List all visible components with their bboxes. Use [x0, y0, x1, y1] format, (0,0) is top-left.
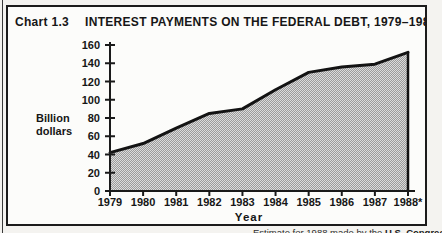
x-tick-label: 1979 — [98, 196, 122, 208]
chart-title: INTEREST PAYMENTS ON THE FEDERAL DEBT, 1… — [85, 15, 427, 29]
x-tick-label: 1986 — [330, 196, 354, 208]
x-tick-label: 1985 — [296, 196, 320, 208]
y-tick-label: 100 — [82, 94, 100, 106]
y-tick-label: 140 — [82, 57, 100, 69]
y-tick-label: 60 — [88, 130, 100, 142]
y-tick-label: 80 — [88, 112, 100, 124]
plot-svg: 0204060801001201401601979198019811982198… — [62, 35, 427, 226]
x-tick-label: 1981 — [164, 196, 188, 208]
clipped-source-text: Estimate for 1988 made by the U.S. Congr… — [253, 227, 442, 233]
x-tick-label: 1980 — [131, 196, 155, 208]
x-tick-label: 1987 — [363, 196, 387, 208]
chart-number-label: Chart 1.3 — [15, 15, 69, 29]
y-tick-label: 120 — [82, 76, 100, 88]
chart-card: Chart 1.3 INTEREST PAYMENTS ON THE FEDER… — [6, 5, 427, 226]
clipped-source-text-start: Estimate for 1988 made by the — [253, 227, 385, 233]
y-tick-label: 20 — [88, 167, 100, 179]
x-tick-label: 1988* — [394, 196, 423, 208]
y-tick-label: 160 — [82, 39, 100, 51]
area-fill — [110, 52, 408, 191]
clipped-source-text-emphasis: U.S. Congress — [385, 227, 442, 233]
page-edge-line — [2, 0, 3, 233]
x-axis-title: Year — [235, 211, 263, 223]
x-tick-label: 1983 — [230, 196, 254, 208]
x-tick-label: 1982 — [197, 196, 221, 208]
chart-header: Chart 1.3 INTEREST PAYMENTS ON THE FEDER… — [15, 15, 427, 29]
x-tick-label: 1984 — [263, 196, 288, 208]
y-tick-label: 40 — [88, 149, 100, 161]
